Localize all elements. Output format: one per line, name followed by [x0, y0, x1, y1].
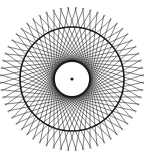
rosette-figure	[0, 0, 150, 163]
center-dot	[70, 77, 73, 80]
rosette-drawing	[0, 0, 150, 163]
